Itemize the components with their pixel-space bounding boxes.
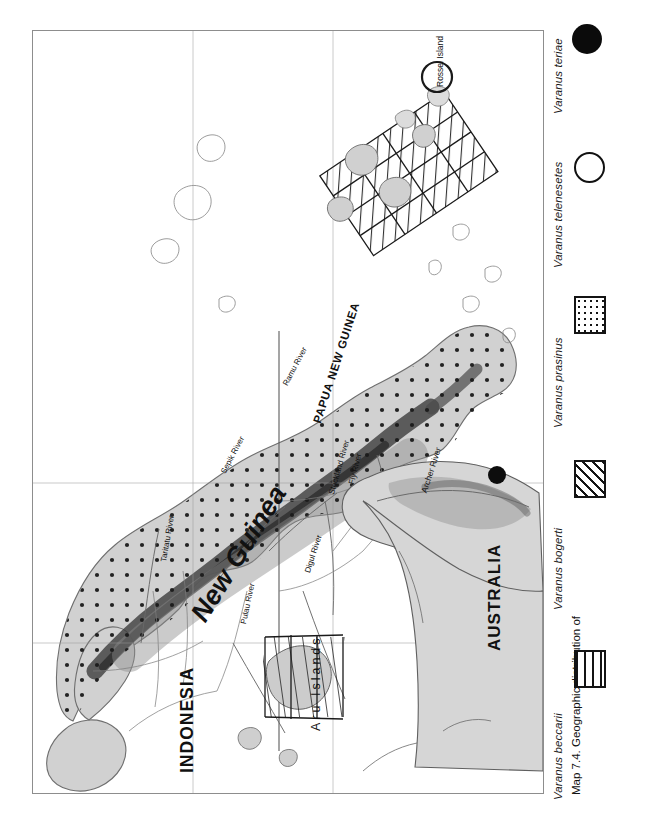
aru-islands bbox=[238, 635, 345, 766]
map-frame: New Guinea INDONESIA PAPUA NEW GUINEA AU… bbox=[32, 30, 544, 794]
legend-swatch-bogerti bbox=[574, 460, 606, 498]
australia-landmass bbox=[342, 462, 543, 771]
legend-swatch-prasinus bbox=[574, 296, 606, 334]
map-label-australia: AUSTRALIA bbox=[485, 544, 505, 651]
scanned-page: New Guinea INDONESIA PAPUA NEW GUINEA AU… bbox=[0, 0, 664, 822]
legend-label-prasinus: Varanus prasinus bbox=[552, 337, 564, 428]
map-label-aru-islands: Aru Islands bbox=[309, 635, 323, 731]
legend-label-teriae: Varanus teriae bbox=[552, 38, 564, 114]
legend-label-bogerti: Varanus bogerti bbox=[552, 528, 564, 610]
legend-swatch-beccarii bbox=[574, 650, 606, 688]
figure-legend: Map 7.4. Geographic distribution of Vara… bbox=[548, 0, 664, 822]
map-label-rossel-island: Rossel Island bbox=[435, 36, 445, 87]
legend-label-telenesetes: Varanus telenesetes bbox=[552, 162, 564, 268]
legend-swatch-telenesetes bbox=[574, 152, 605, 183]
figure-caption: Map 7.4. Geographic distribution of bbox=[570, 616, 582, 795]
legend-label-beccarii: Varanus beccarii bbox=[552, 713, 564, 800]
legend-swatch-teriae bbox=[572, 24, 602, 54]
map-graphic bbox=[33, 31, 543, 793]
map-label-indonesia: INDONESIA bbox=[177, 667, 198, 773]
